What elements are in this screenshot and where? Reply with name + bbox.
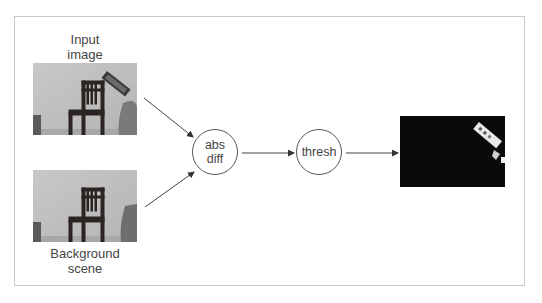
abs-diff-label-line1: abs bbox=[205, 138, 225, 152]
arrow-input-to-absdiff bbox=[144, 98, 193, 137]
arrow-background-to-absdiff bbox=[145, 172, 194, 207]
thresh-label: thresh bbox=[302, 145, 337, 159]
abs-diff-label-line2: diff bbox=[207, 152, 223, 166]
foreground-mask-output bbox=[400, 116, 505, 187]
abs-diff-node: abs diff bbox=[192, 129, 238, 175]
thresh-node: thresh bbox=[296, 129, 342, 175]
